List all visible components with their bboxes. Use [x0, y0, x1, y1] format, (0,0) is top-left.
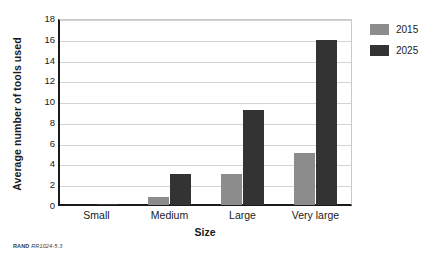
y-axis-tick-label: 10: [33, 97, 55, 107]
y-axis-tick-label: 6: [33, 139, 55, 149]
legend-item-2025[interactable]: 2025: [370, 45, 436, 56]
y-axis-tick-label: 12: [33, 77, 55, 87]
x-axis-tick-label: Large: [229, 209, 256, 221]
chart-legend: 20152025: [370, 24, 436, 66]
bar-2015-medium[interactable]: [148, 197, 169, 205]
y-axis-tick-label: 8: [33, 118, 55, 128]
source-organization: RAND: [13, 243, 30, 249]
y-axis-tick-label: 0: [33, 201, 55, 211]
x-axis-tick-labels: SmallMediumLargeVery large: [60, 209, 352, 225]
bar-2015-large[interactable]: [221, 174, 242, 205]
bar-2025-very-large[interactable]: [316, 40, 337, 205]
y-axis-tick-label: 18: [33, 14, 55, 24]
bar-2015-very-large[interactable]: [294, 153, 315, 205]
legend-item-label: 2015: [396, 25, 418, 35]
bar-group: [279, 19, 352, 205]
bar-group: [206, 19, 279, 205]
bar-group: [133, 19, 206, 205]
x-axis-title: Size: [58, 226, 352, 238]
x-axis-tick-label: Medium: [151, 209, 188, 221]
legend-swatch-icon: [370, 45, 389, 56]
source-identifier: RR1024-5.3: [31, 243, 62, 249]
y-axis-tick-label: 2: [33, 180, 55, 190]
bars-layer: [60, 19, 352, 205]
y-axis-title-label: Average number of tools used: [11, 37, 23, 191]
source-note: RAND RR1024-5.3: [13, 243, 62, 249]
legend-swatch-icon: [370, 24, 389, 35]
y-axis-tick-label: 14: [33, 56, 55, 66]
bar-2025-medium[interactable]: [170, 174, 191, 205]
y-axis-tick-labels: 024681012141618: [30, 19, 55, 206]
legend-item-2015[interactable]: 2015: [370, 24, 436, 35]
bar-2025-large[interactable]: [243, 110, 264, 205]
y-axis-tick-label: 4: [33, 160, 55, 170]
bar-chart-figure: Average number of tools used 02468101214…: [0, 0, 439, 266]
bar-2025-small[interactable]: [97, 204, 118, 205]
bar-group: [60, 19, 133, 205]
x-axis-tick-label: Small: [83, 209, 109, 221]
y-axis-tick-label: 16: [33, 35, 55, 45]
legend-item-label: 2025: [396, 46, 418, 56]
y-axis-title: Average number of tools used: [6, 14, 28, 214]
x-axis-tick-label: Very large: [292, 209, 339, 221]
